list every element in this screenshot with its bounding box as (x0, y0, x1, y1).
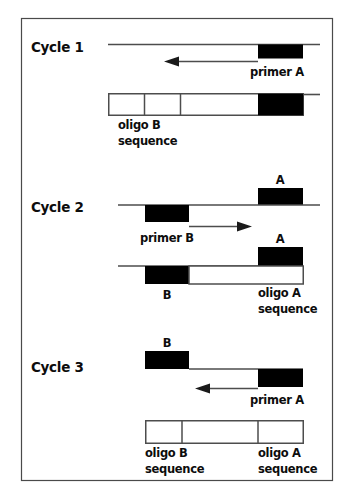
cycle-2-block-b (145, 266, 189, 284)
cycle-2-block-a-mid (258, 247, 303, 266)
cycle-2-oligo-a-line2: sequence (258, 302, 318, 316)
cycle-3-block-b-label: B (163, 336, 171, 350)
cycle-3-oligo-b-line1: oligo B (145, 446, 188, 460)
cycle-3-oligo-a-line2: sequence (258, 462, 318, 476)
cycle-3-oligo-a-line1: oligo A (258, 446, 301, 460)
cycle-1-oligo-b-line2: sequence (118, 134, 178, 148)
cycle-3-product-box (146, 421, 304, 444)
cycle-1-oligo-b-line1: oligo B (118, 118, 161, 132)
cycle-2-block-a-mid-label: A (276, 232, 285, 246)
cycle-1-primer-a-block (258, 45, 303, 59)
cycle-1-duplex-black-block (258, 94, 303, 116)
cycle-2-block-a-top-label: A (276, 173, 285, 187)
cycle-3-label: Cycle 3 (31, 359, 84, 375)
cycle-2-oligo-a-line1: oligo A (258, 286, 301, 300)
cycle-3-primer-label: primer A (250, 393, 304, 407)
pcr-cycle-diagram: Cycle 1 primer A oligo B sequence Cycle … (0, 0, 350, 498)
cycle-2-block-b-label: B (163, 288, 171, 302)
cycle-2-primer-b-block (145, 205, 189, 222)
cycle-3-oligo-b-line2: sequence (145, 462, 205, 476)
cycle-2-block-a-top (258, 188, 303, 205)
cycle-2-label: Cycle 2 (31, 199, 84, 215)
cycle-1-primer-label: primer A (250, 65, 304, 79)
cycle-3-block-b (145, 351, 189, 369)
figure-root: Cycle 1 primer A oligo B sequence Cycle … (0, 0, 350, 498)
cycle-2-oligo-a-box (189, 266, 303, 284)
cycle-2-primer-label: primer B (140, 231, 194, 245)
cycle-3-primer-a-block (258, 369, 303, 387)
cycle-1-label: Cycle 1 (31, 39, 84, 55)
